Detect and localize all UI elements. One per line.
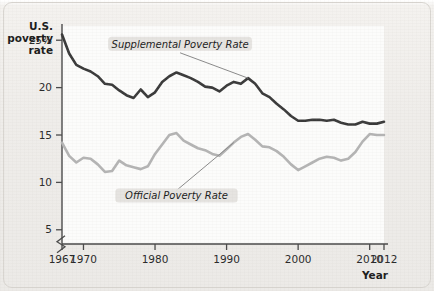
y-axis-title-line-3: rate [29, 44, 53, 56]
x-axis-title: Year [361, 269, 389, 281]
x-tick-label: 2012 [371, 253, 398, 265]
y-tick-label: 15 [39, 129, 52, 141]
y-axis-title-line-1: U.S. [29, 20, 53, 32]
figure-container: 25%2015105 1967197019801990200020102012 … [0, 0, 434, 291]
y-tick-label: 20 [39, 81, 52, 93]
x-tick-label: 1990 [213, 253, 240, 265]
x-tick-label: 1980 [142, 253, 169, 265]
series-label: Supplemental Poverty Rate [112, 39, 249, 50]
plot-area-background [62, 26, 384, 244]
x-tick-label: 1970 [70, 253, 97, 265]
y-axis-title-line-2: poverty [7, 32, 53, 44]
x-tick-label: 2000 [285, 253, 312, 265]
y-axis: 25%2015105 [29, 24, 65, 253]
x-axis: 1967197019801990200020102012 [49, 244, 398, 265]
y-tick-label: 5 [45, 223, 52, 235]
y-tick-label: 10 [39, 176, 52, 188]
poverty-rate-line-chart: 25%2015105 1967197019801990200020102012 … [0, 0, 434, 291]
series-label: Official Poverty Rate [125, 190, 228, 201]
